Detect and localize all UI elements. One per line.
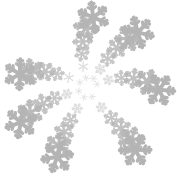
spiral-snowflake-figure — [0, 0, 177, 177]
artwork-canvas — [0, 0, 177, 177]
